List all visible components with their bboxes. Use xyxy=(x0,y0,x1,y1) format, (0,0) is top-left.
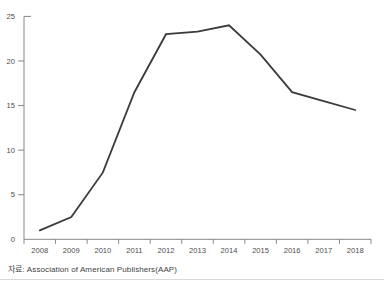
x-tick-label: 2018 xyxy=(347,246,364,255)
x-tick-label: 2015 xyxy=(252,246,269,255)
bottom-divider xyxy=(0,279,384,280)
x-tick-label: 2012 xyxy=(158,246,175,255)
y-tick-label: 0 xyxy=(11,235,15,244)
x-tick-label: 2016 xyxy=(284,246,301,255)
x-tick-label: 2009 xyxy=(63,246,80,255)
data-line-series xyxy=(40,25,355,230)
line-chart: 0510152025200820092010201120122013201420… xyxy=(0,0,384,260)
source-note: 자료: Association of American Publishers(A… xyxy=(8,263,177,274)
x-tick-label: 2008 xyxy=(31,246,48,255)
y-tick-label: 20 xyxy=(7,57,15,66)
chart-panel: 0510152025200820092010201120122013201420… xyxy=(0,0,384,283)
x-tick-label: 2013 xyxy=(189,246,206,255)
x-tick-label: 2014 xyxy=(221,246,238,255)
y-tick-label: 25 xyxy=(7,12,15,21)
y-tick-label: 15 xyxy=(7,101,15,110)
y-tick-label: 10 xyxy=(7,146,15,155)
x-tick-label: 2011 xyxy=(126,246,142,255)
y-tick-label: 5 xyxy=(11,190,15,199)
x-tick-label: 2010 xyxy=(94,246,111,255)
x-tick-label: 2017 xyxy=(315,246,332,255)
